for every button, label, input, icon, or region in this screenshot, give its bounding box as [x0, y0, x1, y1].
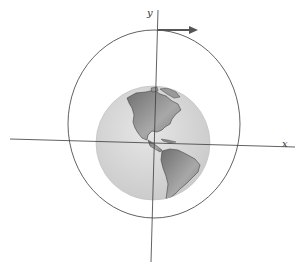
diagram-canvas — [0, 0, 297, 266]
velocity-arrow — [158, 26, 198, 34]
y-axis-label: y — [147, 7, 153, 18]
x-axis-label: x — [282, 138, 288, 149]
orbit-diagram: y x — [0, 0, 297, 266]
